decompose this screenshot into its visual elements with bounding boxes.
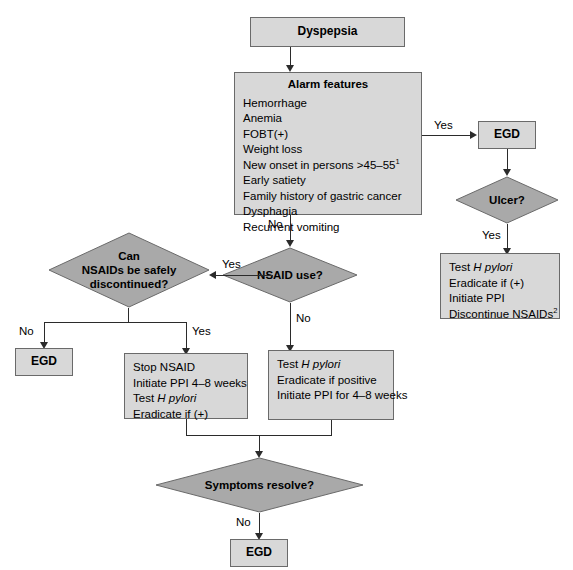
alarm-features-title: Alarm features <box>235 77 421 93</box>
node-dyspepsia: Dyspepsia <box>250 17 405 47</box>
ulcer-tx-eradicate: Eradicate if (+) <box>449 276 559 292</box>
ulcer-tx-discontinue-superscript: 2 <box>553 306 557 315</box>
connector-dyspepsia-to-alarm <box>290 47 291 67</box>
test-hpylori-item-3: Initiate PPI for 4–8 weeks <box>277 388 393 404</box>
edge-label-alarm-yes: Yes <box>434 119 453 132</box>
ulcer-diamond-shape <box>455 176 559 224</box>
arrowhead-dyspepsia-to-alarm <box>286 65 294 72</box>
stop-nsaid-item-3: Test H pylori <box>133 391 247 407</box>
node-egd-top-label: EGD <box>494 127 520 143</box>
arrowhead-alarm-yes <box>470 131 477 139</box>
alarm-item-anemia: Anemia <box>243 111 421 127</box>
node-symptoms-resolve: Symptoms resolve? <box>155 457 364 513</box>
stop-nsaid-item-2: Initiate PPI 4–8 weeks <box>133 376 247 392</box>
ulcer-tx-discontinue-text: Discontinue NSAIDs <box>449 308 553 320</box>
test-hpylori-item-2: Eradicate if positive <box>277 373 393 389</box>
connector-egd-to-ulcer <box>507 149 508 171</box>
italic-h-pylori: H pylori <box>157 392 196 404</box>
stop-nsaid-item-1: Stop NSAID <box>133 360 247 376</box>
connector-alarm-yes <box>422 135 475 136</box>
connector-stop-nsaid-down <box>186 419 187 435</box>
node-egd-left-label: EGD <box>31 354 57 370</box>
stop-nsaid-item-4: Eradicate if (+) <box>133 407 247 423</box>
node-can-discontinue: Can NSAIDs be safely discontinued? <box>48 232 210 308</box>
italic-h-pylori: H pylori <box>301 358 340 370</box>
edge-label-symptoms-no: No <box>236 516 251 529</box>
connector-discontinue-no <box>44 322 45 344</box>
connector-nsaid-yes <box>215 275 273 276</box>
edge-label-discontinue-no: No <box>19 325 34 338</box>
connector-symptoms-no <box>259 513 260 535</box>
node-egd-left: EGD <box>15 348 73 376</box>
alarm-item-weight-loss: Weight loss <box>243 142 421 158</box>
ulcer-tx-discontinue-nsaids: Discontinue NSAIDs2 <box>449 307 559 323</box>
edge-label-ulcer-yes: Yes <box>482 229 501 242</box>
alarm-item-fobt: FOBT(+) <box>243 127 421 143</box>
connector-test-hpylori-down <box>331 420 332 435</box>
arrowhead-nsaid-yes <box>209 271 216 279</box>
node-stop-nsaid: Stop NSAID Initiate PPI 4–8 weeks Test H… <box>124 353 248 419</box>
alarm-item-new-onset-text: New onset in persons >45–55 <box>243 159 395 171</box>
ulcer-tx-test-hpylori: Test H pylori <box>449 260 559 276</box>
symptoms-resolve-diamond-shape <box>155 457 364 513</box>
node-ulcer-treatment: Test H pylori Eradicate if (+) Initiate … <box>440 253 560 319</box>
edge-label-nsaid-yes: Yes <box>222 258 241 271</box>
connector-ulcer-yes <box>507 224 508 250</box>
edge-label-discontinue-yes: Yes <box>192 325 211 338</box>
alarm-features-list: Hemorrhage Anemia FOBT(+) Weight loss Ne… <box>235 96 421 236</box>
alarm-item-new-onset: New onset in persons >45–551 <box>243 158 421 174</box>
alarm-item-new-onset-superscript: 1 <box>395 157 399 166</box>
test-hpylori-item-1: Test H pylori <box>277 357 393 373</box>
connector-can-discontinue-split <box>44 322 186 323</box>
arrowhead-alarm-no <box>286 240 294 247</box>
arrowhead-egd-to-ulcer <box>503 169 511 176</box>
connector-alarm-no <box>290 215 291 242</box>
alarm-item-family-history: Family history of gastric cancer <box>243 189 421 205</box>
node-dyspepsia-label: Dyspepsia <box>297 24 357 40</box>
node-ulcer: Ulcer? <box>455 176 559 224</box>
connector-discontinue-yes <box>186 322 187 350</box>
flowchart-canvas: Dyspepsia Alarm features Hemorrhage Anem… <box>0 0 573 570</box>
edge-label-nsaid-no: No <box>296 312 311 325</box>
alarm-item-early-satiety: Early satiety <box>243 173 421 189</box>
italic-h-pylori: H pylori <box>473 261 512 273</box>
node-egd-bottom-label: EGD <box>246 545 272 561</box>
connector-can-discontinue-stem <box>128 308 129 322</box>
connector-nsaid-no <box>290 303 291 348</box>
can-discontinue-diamond-shape <box>48 232 210 308</box>
alarm-item-hemorrhage: Hemorrhage <box>243 96 421 112</box>
node-test-hpylori: Test H pylori Eradicate if positive Init… <box>268 350 394 420</box>
ulcer-tx-initiate-ppi: Initiate PPI <box>449 291 559 307</box>
node-egd-bottom: EGD <box>230 539 288 567</box>
edge-label-alarm-no: No <box>268 218 283 231</box>
node-alarm-features: Alarm features Hemorrhage Anemia FOBT(+)… <box>234 72 422 215</box>
node-egd-top: EGD <box>478 121 536 149</box>
